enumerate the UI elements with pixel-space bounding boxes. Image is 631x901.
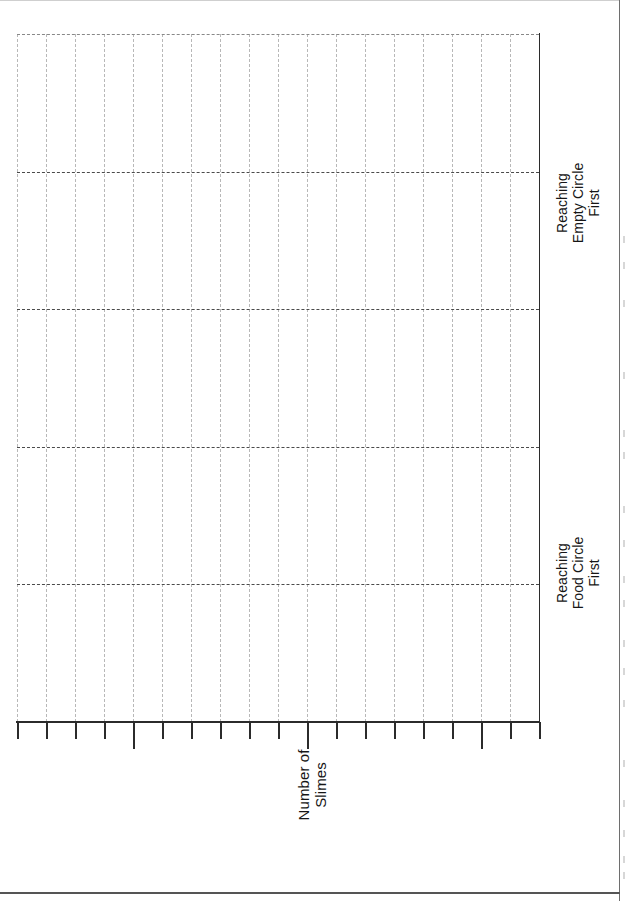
- gridline-vertical: [481, 34, 482, 722]
- gridlines: [17, 34, 539, 722]
- axis-tick-major: [481, 722, 483, 749]
- gridline-vertical: [220, 34, 221, 722]
- gridline-vertical: [249, 34, 250, 722]
- gridline-vertical: [278, 34, 279, 722]
- value-axis-title: Number of Slimes: [296, 725, 330, 845]
- gridline-horizontal-major: [17, 309, 539, 310]
- axis-tick-minor: [278, 722, 280, 739]
- value-axis-line: [539, 33, 540, 723]
- category-label-empty-circle: Reaching Empty Circle First: [555, 128, 602, 278]
- gridline-horizontal-major: [17, 172, 539, 173]
- plot-area: [17, 34, 539, 722]
- axis-tick-minor: [104, 722, 106, 739]
- axis-tick-minor: [220, 722, 222, 739]
- axis-tick-minor: [452, 722, 454, 739]
- gridline-vertical: [365, 34, 366, 722]
- axis-tick-minor: [365, 722, 367, 739]
- gridline-vertical: [17, 34, 18, 722]
- gridline-horizontal-major: [17, 584, 539, 585]
- gridline-vertical: [452, 34, 453, 722]
- axis-tick-minor: [539, 722, 541, 739]
- gridline-vertical: [394, 34, 395, 722]
- axis-tick-minor: [423, 722, 425, 739]
- gridline-vertical: [423, 34, 424, 722]
- axis-tick-minor: [75, 722, 77, 739]
- gridline-vertical: [191, 34, 192, 722]
- gridline-vertical: [307, 34, 308, 722]
- gridline-vertical: [336, 34, 337, 722]
- gridline-vertical: [75, 34, 76, 722]
- gridline-vertical: [133, 34, 134, 722]
- axis-tick-minor: [191, 722, 193, 739]
- gridline-vertical: [46, 34, 47, 722]
- axis-tick-major: [133, 722, 135, 749]
- axis-tick-minor: [336, 722, 338, 739]
- category-label-food-circle: Reaching Food Circle First: [555, 498, 602, 648]
- gridline-horizontal: [17, 34, 539, 35]
- axis-tick-minor: [162, 722, 164, 739]
- gridline-horizontal-major: [17, 447, 539, 448]
- gridline-vertical: [510, 34, 511, 722]
- axis-tick-minor: [510, 722, 512, 739]
- axis-tick-minor: [394, 722, 396, 739]
- gridline-vertical: [104, 34, 105, 722]
- axis-tick-minor: [249, 722, 251, 739]
- axis-tick-minor: [46, 722, 48, 739]
- axis-tick-minor: [17, 722, 19, 739]
- gridline-vertical: [162, 34, 163, 722]
- chart-figure: Number of Slimes Reaching Food Circle Fi…: [0, 0, 631, 901]
